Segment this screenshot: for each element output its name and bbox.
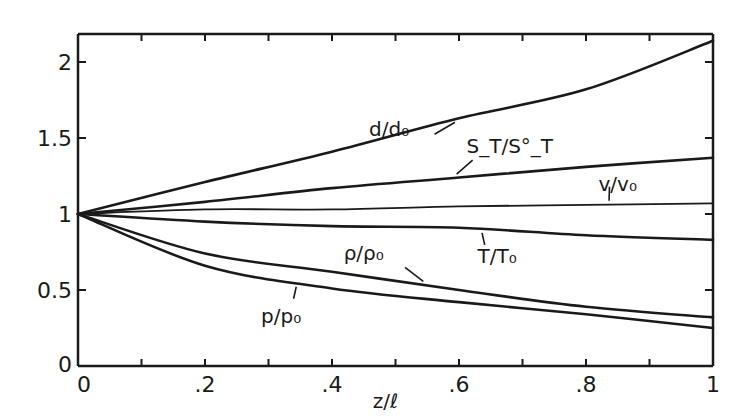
series-label-st: S_T/S°_T	[467, 134, 554, 158]
leader-line-p	[294, 287, 297, 299]
x-tick-label: .2	[195, 372, 216, 397]
axes	[78, 34, 713, 366]
series-line-rho	[78, 214, 713, 317]
x-axis-title: z/ℓ	[373, 389, 399, 413]
series-labels: d/d₀S_T/S°_Tv/v₀T/T₀ρ/ρ₀p/p₀	[261, 117, 637, 328]
x-tick-label: .4	[322, 372, 343, 397]
y-tick-label: 1.5	[37, 126, 72, 151]
leader-line-rho	[405, 267, 423, 281]
leader-line-st	[457, 160, 473, 174]
y-tick-label: 0.5	[37, 278, 72, 303]
tick-labels: 0.2.4.6.8100.511.52	[37, 50, 720, 397]
x-tick-label: 1	[706, 372, 720, 397]
series-label-t: T/T₀	[476, 244, 516, 268]
series-label-d: d/d₀	[369, 117, 409, 141]
y-tick-label: 1	[58, 202, 72, 227]
x-tick-label: .8	[576, 372, 597, 397]
ticks	[78, 34, 713, 366]
y-tick-label: 2	[58, 50, 72, 75]
x-tick-label: .6	[449, 372, 470, 397]
x-tick-label: 0	[77, 372, 91, 397]
line-chart: 0.2.4.6.8100.511.52 d/d₀S_T/S°_Tv/v₀T/T₀…	[0, 0, 741, 418]
series-label-rho: ρ/ρ₀	[344, 241, 384, 265]
y-tick-label: 0	[58, 352, 72, 377]
series-label-v: v/v₀	[599, 172, 637, 196]
series-line-t	[78, 214, 713, 240]
series-label-p: p/p₀	[261, 304, 301, 328]
